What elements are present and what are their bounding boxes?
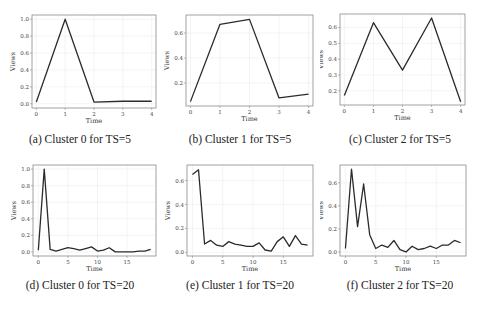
- chart-d-svg: 0510150.00.20.40.60.81.0TimeViews: [0, 156, 160, 276]
- y-tick-label: 0.2: [174, 80, 183, 86]
- chart-a-svg: 012340.00.20.40.60.81.0TimeViews: [0, 0, 160, 130]
- y-tick-label: 0.0: [175, 249, 184, 255]
- chart-e-svg: 0510150.00.20.40.6TimeViews: [160, 156, 320, 276]
- y-tick-label: 0.6: [21, 199, 30, 205]
- caption-c: (c) Cluster 2 for TS=5: [320, 133, 480, 145]
- caption-f: (f) Cluster 2 for TS=20: [320, 279, 480, 291]
- y-axis-label: Views: [9, 52, 17, 72]
- x-axis-label: Time: [394, 114, 411, 122]
- y-axis-label: Views: [163, 51, 171, 71]
- y-tick-label: 0.6: [328, 24, 337, 30]
- y-tick-label: 0.8: [21, 183, 30, 189]
- x-tick-label: 0: [37, 259, 41, 265]
- y-tick-label: 0.2: [328, 88, 337, 94]
- y-tick-label: 1.0: [20, 16, 29, 22]
- x-tick-label: 5: [374, 259, 378, 265]
- caption-b: (b) Cluster 1 for TS=5: [160, 133, 320, 145]
- x-tick-label: 0: [344, 259, 348, 265]
- y-tick-label: 0.2: [175, 225, 184, 231]
- y-tick-label: 0.0: [21, 249, 30, 255]
- y-axis-label: Views: [320, 50, 325, 70]
- subplot-d: 0510150.00.20.40.60.81.0TimeViews (d) Cl…: [0, 156, 160, 312]
- chart-f-svg: 0510150.00.20.40.6TimeViews: [320, 156, 480, 276]
- y-tick-label: 0.4: [328, 203, 337, 209]
- x-tick-label: 5: [221, 259, 225, 265]
- y-tick-label: 0.4: [328, 56, 337, 62]
- y-tick-label: 0.3: [328, 72, 337, 78]
- x-axis-label: Time: [86, 117, 103, 125]
- x-tick-label: 4: [459, 108, 463, 114]
- x-axis-label: Time: [86, 265, 103, 273]
- subplot-a: 012340.00.20.40.60.81.0TimeViews (a) Clu…: [0, 0, 160, 156]
- y-tick-label: 0.2: [21, 232, 30, 238]
- y-tick-label: 0.4: [21, 216, 30, 222]
- chart-b-svg: 012340.20.40.6TimeViews: [160, 0, 320, 130]
- y-tick-label: 0.2: [20, 84, 29, 90]
- x-axis-label: Time: [395, 265, 412, 273]
- y-tick-label: 0.4: [175, 202, 184, 208]
- caption-a: (a) Cluster 0 for TS=5: [0, 133, 160, 145]
- y-tick-label: 0.6: [175, 178, 184, 184]
- x-tick-label: 1: [218, 109, 222, 115]
- y-axis-label: Views: [320, 201, 325, 221]
- y-tick-label: 1.0: [21, 166, 30, 172]
- x-tick-label: 4: [150, 111, 154, 117]
- x-tick-label: 1: [372, 108, 376, 114]
- x-tick-label: 0: [35, 111, 39, 117]
- y-tick-label: 0.6: [328, 180, 337, 186]
- subplot-b: 012340.20.40.6TimeViews (b) Cluster 1 fo…: [160, 0, 320, 156]
- x-axis-label: Time: [242, 265, 259, 273]
- caption-d: (d) Cluster 0 for TS=20: [0, 279, 160, 291]
- x-tick-label: 1: [63, 111, 67, 117]
- subplot-c: 012340.20.30.40.50.6TimeViews (c) Cluste…: [320, 0, 480, 156]
- subplot-e: 0510150.00.20.40.6TimeViews (e) Cluster …: [160, 156, 320, 312]
- x-tick-label: 0: [343, 108, 347, 114]
- x-tick-label: 0: [191, 259, 195, 265]
- x-tick-label: 0: [189, 109, 193, 115]
- x-tick-label: 15: [280, 259, 287, 265]
- y-tick-label: 0.6: [20, 50, 29, 56]
- y-tick-label: 0.0: [328, 249, 337, 255]
- x-tick-label: 3: [121, 111, 125, 117]
- y-axis-label: Views: [10, 201, 18, 221]
- y-tick-label: 0.8: [20, 33, 29, 39]
- x-tick-label: 15: [433, 259, 440, 265]
- x-tick-label: 15: [124, 259, 131, 265]
- subplot-f: 0510150.00.20.40.6TimeViews (f) Cluster …: [320, 156, 480, 312]
- y-tick-label: 0.4: [174, 55, 183, 61]
- y-tick-label: 0.4: [20, 67, 29, 73]
- y-tick-label: 0.0: [20, 101, 29, 107]
- x-tick-label: 5: [66, 259, 70, 265]
- y-axis-label: Views: [164, 201, 172, 221]
- x-axis-label: Time: [241, 115, 258, 123]
- chart-c-svg: 012340.20.30.40.50.6TimeViews: [320, 0, 480, 130]
- caption-e: (e) Cluster 1 for TS=20: [160, 279, 320, 291]
- x-tick-label: 3: [277, 109, 281, 115]
- x-tick-label: 3: [430, 108, 434, 114]
- y-tick-label: 0.5: [328, 40, 337, 46]
- y-tick-label: 0.6: [174, 30, 183, 36]
- x-tick-label: 4: [307, 109, 311, 115]
- y-tick-label: 0.2: [328, 226, 337, 232]
